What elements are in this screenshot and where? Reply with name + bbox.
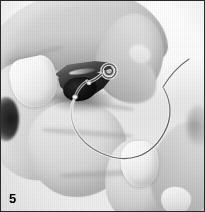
instructional-photo-figure: 5 Black and white instructional photo, s… [0,0,205,212]
photo-vignette [1,1,204,211]
step-number-label: 5 [9,192,16,205]
photo-stage [1,1,204,211]
